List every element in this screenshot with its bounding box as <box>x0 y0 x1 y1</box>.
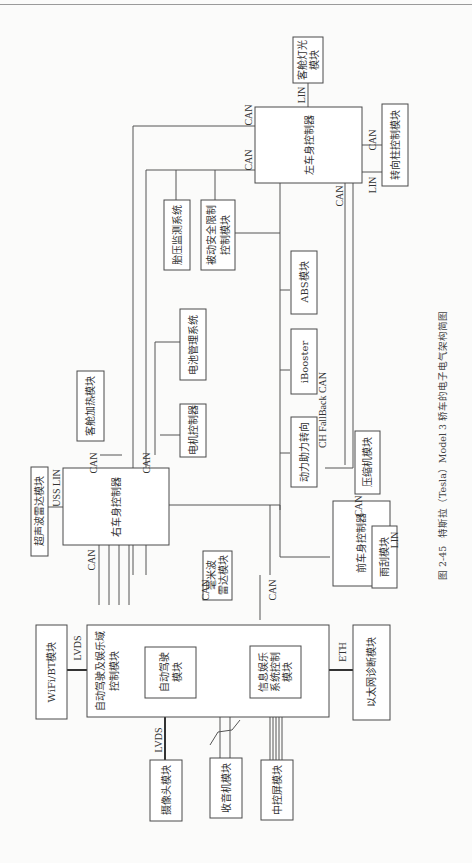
bus-label-can: CAN <box>141 452 152 473</box>
mmwave-radar-label-2: 雷达模块 <box>218 555 229 595</box>
wifi-bt-label: WiFi/BT模块 <box>46 642 57 703</box>
radio-label: 收音机模块 <box>220 763 232 813</box>
motor-controller-label: 电机控制器 <box>187 405 199 455</box>
passive-safety-label-1: 被动安全限制 <box>205 205 217 265</box>
steering-column-label: 转向柱控制模块 <box>389 110 401 180</box>
bus-label-lvds: LVDS <box>153 727 164 752</box>
bus-label-eth: ETH <box>337 642 348 661</box>
tpms-label: 胎压监测系统 <box>171 205 183 265</box>
cabin-light-label-1: 客舱灯光 <box>296 40 308 80</box>
power-steering-label: 动力助力转向 <box>298 422 310 482</box>
center-display-label: 中控屏模块 <box>271 765 283 815</box>
figure-caption: 图 2-45 特斯拉（Tesla）Model 3 轿车的电子电气架构简图 <box>437 311 448 580</box>
infotainment-label-3: 模块 <box>282 662 293 682</box>
camera-label: 摄像头模块 <box>160 765 172 815</box>
bus-label-lin: LIN <box>367 177 378 194</box>
bus-label-can: CAN <box>243 104 254 125</box>
ultrasonic-radar-label: 超声波雷达模块 <box>33 476 45 546</box>
caption-title: 特斯拉（Tesla）Model 3 轿车的电子电气架构简图 <box>437 311 448 538</box>
architecture-diagram: 客舱灯光 模块 左车身控制器 转向柱控制模块 胎压监测系统 被动安全限制 控制模… <box>0 0 472 863</box>
compressor-label: 压缩机模块 <box>361 437 373 487</box>
bus-label-can: CAN <box>243 149 254 170</box>
autopilot-label-2: 模块 <box>172 662 183 682</box>
bus-label-can: CAN <box>334 185 345 206</box>
passive-safety-label-2: 控制模块 <box>219 215 231 255</box>
bus-label-can: CAN <box>353 495 364 516</box>
ethernet-diagnostic-label: 以太网诊断模块 <box>365 637 377 707</box>
cabin-light-label-2: 模块 <box>309 50 320 70</box>
infotainment-label-2: 系统控制 <box>269 652 281 692</box>
left-body-controller-label: 左车身控制器 <box>303 115 315 175</box>
ibooster-label: iBooster <box>299 341 310 384</box>
bus-label-can: CAN <box>267 579 278 600</box>
adas-domain-label-2: 控制模块 <box>108 651 120 691</box>
caption-number: 图 2-45 <box>437 546 448 580</box>
bus-label-ch-fallback-can: CH FallBack CAN <box>317 372 328 448</box>
bus-label-lvds: LVDS <box>72 635 83 660</box>
autopilot-label-1: 自动驾驶 <box>158 652 170 692</box>
infotainment-label-1: 信息娱乐 <box>257 652 269 692</box>
battery-management-label: 电池管理系统 <box>187 315 199 375</box>
bus-label-lin: LIN <box>296 87 307 104</box>
bus-label-lin: LIN <box>389 532 400 549</box>
diagram-canvas: 客舱灯光 模块 左车身控制器 转向柱控制模块 胎压监测系统 被动安全限制 控制模… <box>0 0 472 863</box>
right-body-controller-label: 右车身控制器 <box>110 477 122 537</box>
abs-label: ABS模块 <box>299 261 310 303</box>
adas-domain-label-1: 自动驾驶及娱乐域 <box>94 631 106 711</box>
bus-label-can: CAN <box>200 579 211 600</box>
bus-label-uss-lin: USS LIN <box>51 469 62 507</box>
front-body-controller-label: 前车身控制器 <box>355 513 367 573</box>
bus-label-can: CAN <box>86 549 97 570</box>
cabin-heating-label: 客舱加热模块 <box>84 376 96 436</box>
autopilot-module <box>145 647 196 698</box>
bus-label-can: CAN <box>88 452 99 473</box>
bus-label-can: CAN <box>367 129 378 150</box>
